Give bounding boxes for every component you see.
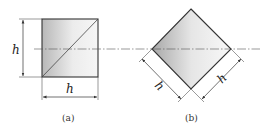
- panel-b: h h (b): [139, 9, 244, 123]
- extension-line-lr-1: [231, 49, 244, 62]
- caption-b: (b): [185, 113, 198, 123]
- lower-left-label: h: [152, 78, 167, 93]
- panel-a: h h (a): [12, 19, 98, 123]
- height-label: h: [12, 43, 20, 57]
- caption-a: (a): [62, 113, 74, 123]
- width-label: h: [66, 82, 74, 96]
- extension-line-ll-1: [139, 49, 152, 62]
- extension-line-ll-2: [178, 89, 191, 102]
- beam-cross-section-diagram: h h (a) h h (b): [0, 0, 266, 131]
- extension-line-lr-2: [191, 89, 204, 102]
